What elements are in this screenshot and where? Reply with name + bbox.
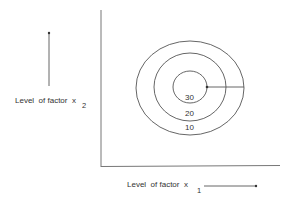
y-axis-subscript: 2 <box>82 101 86 110</box>
x-axis-line <box>101 166 280 167</box>
arrowhead-icon <box>206 86 209 89</box>
contour-diagram: 30 20 10 Level of factor x 2 Level of fa… <box>0 0 297 201</box>
y-axis-label: Level of factor x <box>15 96 76 105</box>
x-axis-label: Level of factor x <box>127 180 188 189</box>
x-axis-subscript: 1 <box>197 186 201 195</box>
contour-label-20: 20 <box>185 109 194 118</box>
y-direction-arrowhead-icon <box>48 32 50 34</box>
contour-label-10: 10 <box>185 123 194 132</box>
contour-label-30: 30 <box>185 93 194 102</box>
x-direction-arrowhead-icon <box>255 185 257 187</box>
